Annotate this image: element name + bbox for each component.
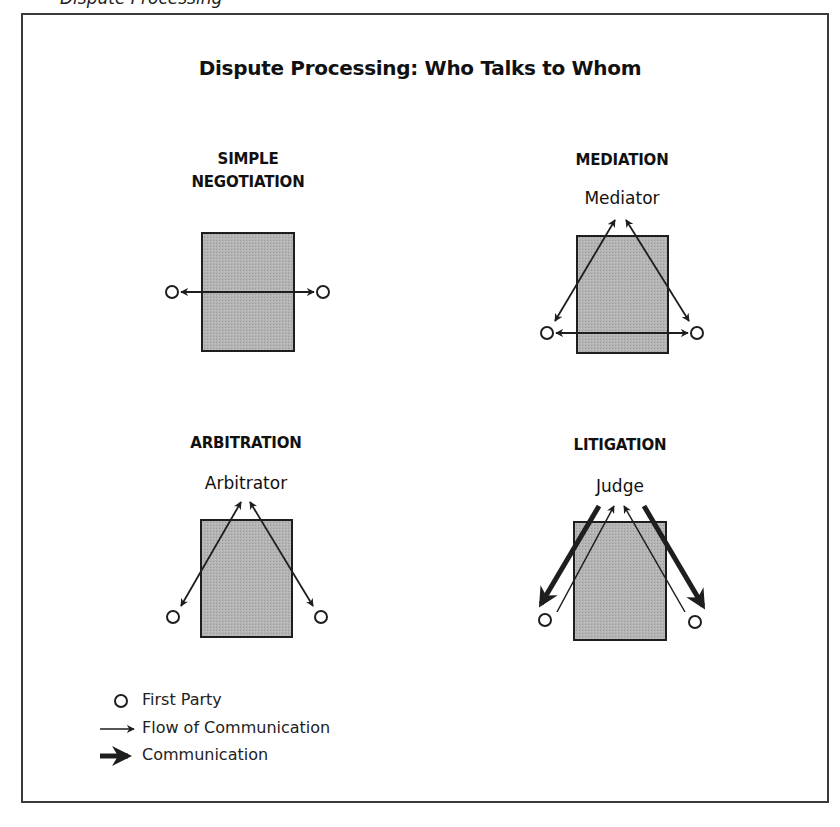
- legend-label-communication: Communication: [142, 745, 268, 764]
- panel-arbitration: [167, 502, 327, 637]
- dispute-box: [577, 236, 668, 353]
- panel-litigation: [539, 506, 703, 640]
- first-party-circle-left: [166, 286, 178, 298]
- first-party-circle-right: [315, 611, 327, 623]
- first-party-circle-right: [317, 286, 329, 298]
- circle-icon: [115, 695, 127, 707]
- first-party-circle-left: [541, 327, 553, 339]
- first-party-circle-right: [691, 327, 703, 339]
- legend-label-first-party: First Party: [142, 690, 222, 709]
- first-party-circle-left: [539, 614, 551, 626]
- panel-simple-negotiation: [166, 233, 329, 351]
- legend: [100, 695, 134, 756]
- dispute-box: [201, 520, 292, 637]
- dispute-diagram: [0, 0, 840, 827]
- legend-label-flow-of-communication: Flow of Communication: [142, 718, 330, 737]
- panel-mediation: [541, 220, 703, 353]
- first-party-circle-right: [689, 616, 701, 628]
- first-party-circle-left: [167, 611, 179, 623]
- dispute-box: [574, 522, 666, 640]
